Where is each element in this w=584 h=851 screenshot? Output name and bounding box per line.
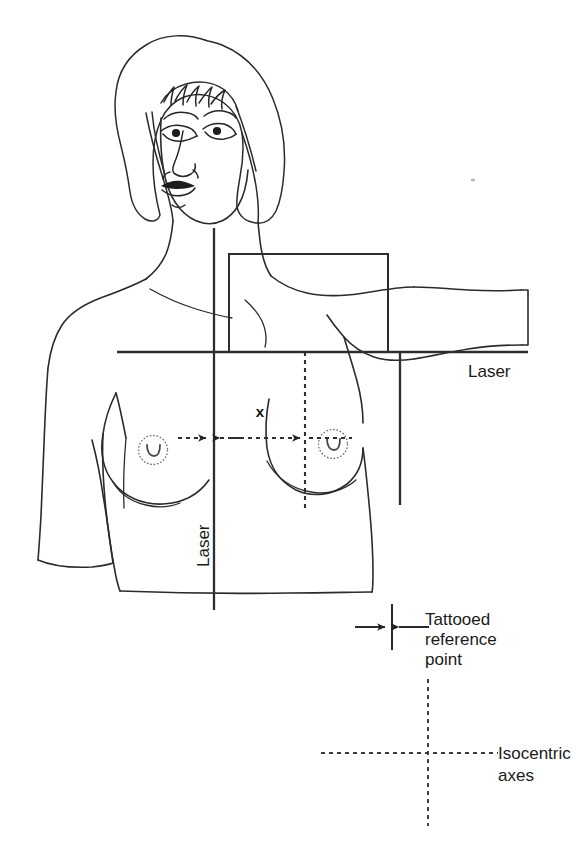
scan-artifact-speck — [471, 178, 475, 181]
tattoo-label-line2: reference — [425, 630, 497, 649]
eye-left-pupil — [172, 129, 180, 137]
dimension-x-label: x — [256, 403, 265, 420]
tattoo-label-line1: Tattooed — [425, 610, 490, 629]
figure-root: x Laser Laser Tattooed reference point I… — [0, 0, 584, 851]
eye-right-pupil — [213, 127, 221, 135]
laser-label-vertical: Laser — [194, 524, 213, 567]
isocentric-label-line2: axes — [498, 766, 534, 785]
laser-label-horizontal: Laser — [468, 362, 511, 381]
tattoo-label-line3: point — [425, 650, 462, 669]
figure-background — [0, 0, 584, 851]
medical-illustration-canvas: x Laser Laser Tattooed reference point I… — [0, 0, 584, 851]
isocentric-label-line1: Isocentric — [498, 744, 571, 763]
